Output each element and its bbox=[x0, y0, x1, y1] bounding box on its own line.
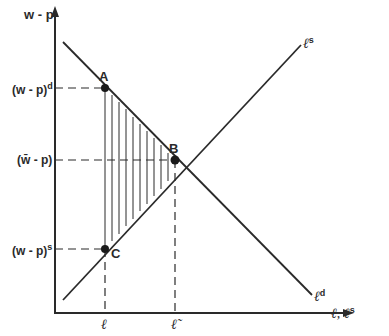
point-c-label: C bbox=[111, 247, 120, 260]
diagram-canvas bbox=[0, 0, 389, 336]
y-tick-wp-demand: (w - p)d bbox=[12, 82, 53, 96]
curve-sup: d bbox=[320, 288, 326, 298]
x-tick-l-tilde: ℓ̃ bbox=[171, 318, 177, 332]
x-tick-l: ℓ bbox=[101, 318, 107, 332]
y-axis-label: w - p bbox=[24, 8, 54, 21]
point-b bbox=[171, 156, 180, 165]
x-axis-label-text: ℓ, ℓ bbox=[331, 306, 350, 321]
demand-curve-label: ℓd bbox=[314, 289, 325, 304]
x-axis-label: ℓ, ℓs bbox=[331, 306, 355, 321]
supply-curve-label: ℓs bbox=[303, 36, 314, 51]
point-c bbox=[101, 245, 109, 253]
axes bbox=[51, 6, 354, 317]
curve-sup: s bbox=[309, 35, 314, 45]
y-tick-sup: d bbox=[47, 81, 53, 91]
shaded-region bbox=[105, 88, 168, 249]
y-tick-wp-equilibrium: (w̄ - p) bbox=[17, 154, 52, 166]
point-b-label: B bbox=[169, 142, 178, 155]
x-axis-label-sup: s bbox=[350, 305, 355, 315]
y-tick-label: (w - p) bbox=[12, 244, 47, 258]
y-tick-sup: s bbox=[47, 242, 52, 252]
point-a bbox=[101, 84, 109, 92]
y-tick-label: (w - p) bbox=[12, 83, 47, 97]
point-a-label: A bbox=[99, 70, 108, 83]
y-tick-wp-supply: (w - p)s bbox=[12, 243, 52, 257]
